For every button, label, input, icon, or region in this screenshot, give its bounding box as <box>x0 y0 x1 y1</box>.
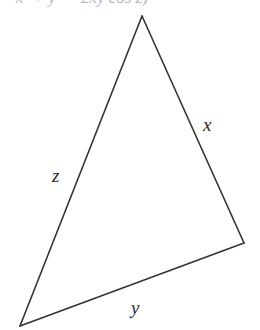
side-z <box>20 16 142 326</box>
triangle-figure <box>0 0 260 330</box>
label-y: y <box>131 298 139 317</box>
label-x: x <box>203 115 211 134</box>
side-x <box>142 16 244 243</box>
label-z: z <box>52 166 59 185</box>
